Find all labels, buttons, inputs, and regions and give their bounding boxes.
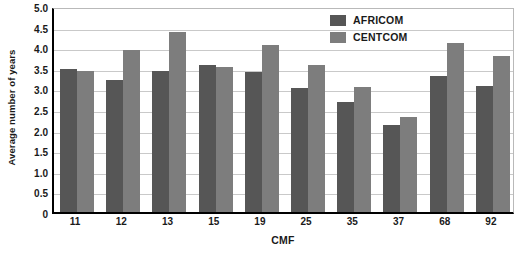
bar-africom-13: [152, 71, 169, 212]
bar-group: [470, 9, 516, 212]
y-axis-tick-label: 2.0: [34, 126, 48, 137]
bar-centcom-12: [123, 50, 140, 212]
bar-centcom-37: [400, 117, 417, 212]
y-axis-tick-label: 1.0: [34, 167, 48, 178]
x-axis-tick-label: 15: [208, 216, 219, 227]
bar-group: [54, 9, 100, 212]
y-axis-title: Average number of years: [0, 0, 22, 215]
bar-group: [146, 9, 192, 212]
bar-centcom-68: [447, 43, 464, 212]
bar-africom-37: [383, 125, 400, 212]
bar-centcom-35: [354, 87, 371, 212]
x-axis-tick-label: 19: [254, 216, 265, 227]
bar-group: [285, 9, 331, 212]
legend-item-centcom: CENTCOM: [330, 31, 407, 43]
plot-area: [52, 8, 514, 214]
x-axis-tick-label: 68: [439, 216, 450, 227]
bar-africom-68: [430, 76, 447, 212]
legend-item-africom: AFRICOM: [330, 14, 407, 26]
y-axis-tick-label: 5.0: [34, 3, 48, 14]
x-axis-tick-label: 37: [393, 216, 404, 227]
x-axis-tick-label: 92: [485, 216, 496, 227]
y-axis-tick-label: 0.5: [34, 188, 48, 199]
y-axis-ticks: 5.04.54.03.53.02.52.01.51.00.50: [22, 8, 52, 214]
bar-centcom-19: [262, 45, 279, 212]
bar-group: [424, 9, 470, 212]
x-axis-tick-label: 25: [301, 216, 312, 227]
bar-centcom-92: [493, 56, 510, 212]
y-axis-tick-label: 2.5: [34, 106, 48, 117]
legend-label-africom: AFRICOM: [353, 14, 403, 26]
legend-swatch-centcom: [330, 32, 346, 43]
y-axis-tick-label: 3.5: [34, 64, 48, 75]
bar-centcom-13: [169, 32, 186, 212]
y-axis-tick-label: 4.0: [34, 44, 48, 55]
bar-centcom-25: [308, 65, 325, 212]
y-axis-tick-label: 1.5: [34, 147, 48, 158]
x-axis-title: CMF: [52, 234, 514, 246]
bar-group: [193, 9, 239, 212]
bar-group: [100, 9, 146, 212]
bar-africom-35: [337, 102, 354, 212]
x-axis-tick-label: 35: [347, 216, 358, 227]
bar-chart: Average number of years 5.04.54.03.53.02…: [0, 0, 520, 258]
y-axis-tick-label: 3.0: [34, 85, 48, 96]
bar-group: [239, 9, 285, 212]
bar-africom-92: [476, 86, 493, 212]
legend-label-centcom: CENTCOM: [353, 31, 407, 43]
x-axis-tick-label: 11: [70, 216, 81, 227]
bar-centcom-15: [216, 67, 233, 212]
legend-swatch-africom: [330, 15, 346, 26]
y-axis-tick-label: 4.5: [34, 23, 48, 34]
y-axis-tick-label: 0: [42, 209, 48, 220]
bar-africom-25: [291, 88, 308, 212]
bar-centcom-11: [77, 71, 94, 212]
x-axis-tick-label: 13: [162, 216, 173, 227]
bar-africom-11: [60, 69, 77, 212]
x-axis-ticks: 11121315192535376892: [52, 216, 514, 234]
bar-africom-15: [199, 65, 216, 212]
legend: AFRICOMCENTCOM: [330, 14, 407, 43]
bar-africom-19: [245, 72, 262, 212]
bars-layer: [54, 9, 513, 212]
y-axis-title-text: Average number of years: [6, 50, 17, 166]
x-axis-tick-label: 12: [116, 216, 127, 227]
bar-africom-12: [106, 80, 123, 212]
